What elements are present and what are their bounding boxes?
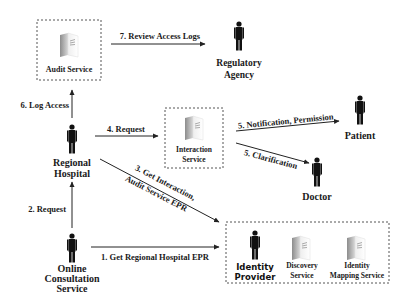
edge-review-access-logs: 7. Review Access Logs bbox=[111, 31, 205, 44]
svg-text:Service: Service bbox=[290, 271, 314, 280]
audit-service-node: Audit Service bbox=[37, 20, 101, 80]
interaction-service-node: Interaction Service bbox=[165, 108, 223, 168]
svg-text:Regional: Regional bbox=[53, 157, 91, 168]
server-icon bbox=[292, 236, 310, 260]
identity-provider-node: Identity Provider bbox=[235, 230, 277, 282]
svg-text:7. Review Access Logs: 7. Review Access Logs bbox=[120, 31, 201, 41]
svg-text:Discovery: Discovery bbox=[286, 261, 318, 270]
svg-text:Service: Service bbox=[56, 283, 88, 294]
edge-get-regional-hospital-epr: 1. Get Regional Hospital EPR bbox=[91, 247, 219, 262]
edge-clarification: 5. Clarification bbox=[236, 143, 309, 171]
discovery-service-node: Discovery Service bbox=[286, 236, 318, 280]
person-icon bbox=[234, 21, 244, 50]
svg-text:Service: Service bbox=[182, 155, 206, 164]
svg-text:Identity: Identity bbox=[344, 261, 370, 270]
edge-request-4: 4. Request bbox=[95, 124, 158, 136]
person-icon bbox=[67, 124, 77, 153]
svg-text:1. Get Regional Hospital EPR: 1. Get Regional Hospital EPR bbox=[101, 252, 210, 262]
svg-text:5. Notification, Permission: 5. Notification, Permission bbox=[238, 111, 335, 130]
svg-text:2. Request: 2. Request bbox=[28, 204, 66, 214]
regional-hospital-node: Regional Hospital bbox=[53, 124, 91, 179]
svg-text:6. Log Access: 6. Log Access bbox=[21, 100, 70, 110]
edge-log-access: 6. Log Access bbox=[21, 90, 72, 118]
svg-text:Doctor: Doctor bbox=[302, 191, 332, 202]
server-icon bbox=[60, 33, 78, 57]
svg-text:Hospital: Hospital bbox=[54, 168, 90, 179]
edge-request-2: 2. Request bbox=[28, 182, 72, 228]
architecture-diagram: Audit Service 7. Review Access Logs Regu… bbox=[0, 0, 405, 298]
server-icon bbox=[347, 236, 365, 260]
svg-text:Agency: Agency bbox=[224, 70, 254, 80]
doctor-node: Doctor bbox=[302, 157, 332, 202]
regulatory-agency-node: Regulatory Agency bbox=[216, 21, 262, 80]
person-icon bbox=[355, 95, 365, 124]
svg-text:Provider: Provider bbox=[235, 272, 277, 282]
patient-node: Patient bbox=[345, 95, 376, 141]
svg-text:Regulatory: Regulatory bbox=[216, 58, 262, 68]
person-icon bbox=[67, 233, 77, 262]
svg-text:4. Request: 4. Request bbox=[107, 124, 145, 134]
identity-mapping-service-node: Identity Mapping Service bbox=[330, 236, 385, 280]
edge-get-interaction-audit-epr: 3. Get Interaction, Audit Service EPR bbox=[100, 159, 219, 222]
server-icon bbox=[185, 116, 203, 140]
identity-provider-group: Identity Provider Discovery Service Iden… bbox=[226, 222, 389, 283]
audit-service-label: Audit Service bbox=[46, 65, 93, 74]
svg-text:Interaction: Interaction bbox=[176, 145, 213, 154]
edge-notification-permission: 5. Notification, Permission bbox=[236, 111, 339, 131]
svg-text:5. Clarification: 5. Clarification bbox=[243, 147, 299, 171]
person-icon bbox=[312, 157, 322, 186]
svg-text:Patient: Patient bbox=[345, 130, 376, 141]
online-consultation-node: Online Consultation Service bbox=[44, 233, 99, 294]
svg-text:Mapping Service: Mapping Service bbox=[330, 271, 385, 280]
svg-text:Identity: Identity bbox=[236, 262, 274, 272]
person-icon bbox=[250, 230, 260, 259]
